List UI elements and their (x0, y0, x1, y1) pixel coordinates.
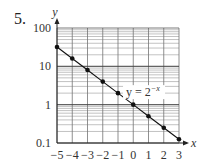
y-axis-label: y (51, 5, 58, 19)
data-point-marker (146, 114, 151, 119)
y-tick-label: 1 (45, 98, 51, 112)
y-tick-label: 10 (39, 59, 51, 73)
semilog-chart: yx −5−4−3−2−101230.1110100 y = 2−x (0, 0, 205, 165)
x-tick-label: 2 (161, 148, 167, 162)
x-axis-arrow-icon (183, 141, 189, 146)
x-tick-label: 3 (176, 148, 182, 162)
axes: yx (51, 5, 197, 150)
data-point-marker (70, 56, 75, 61)
y-tick-label: 100 (33, 21, 51, 35)
x-tick-label: −4 (66, 148, 79, 162)
x-tick-label: −1 (112, 148, 125, 162)
data-point-marker (161, 125, 166, 130)
data-point-marker (85, 68, 90, 73)
x-tick-label: −5 (51, 148, 64, 162)
data-point-marker (100, 79, 105, 84)
curve-label: y = 2−x (123, 84, 165, 99)
data-point-marker (116, 91, 121, 96)
data-point-marker (131, 102, 136, 107)
data-point-marker (177, 137, 182, 142)
y-tick-label: 0.1 (36, 136, 51, 150)
x-tick-label: 0 (130, 148, 136, 162)
x-tick-label: 1 (146, 148, 152, 162)
x-axis-label: x (190, 136, 197, 150)
x-tick-label: −2 (96, 148, 109, 162)
data-point-marker (55, 45, 60, 50)
x-tick-label: −3 (81, 148, 94, 162)
